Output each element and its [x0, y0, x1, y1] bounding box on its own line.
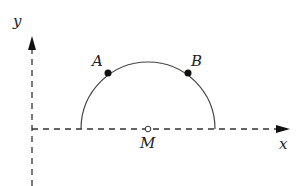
diagram-canvas [0, 0, 303, 186]
x-axis-label: x [279, 137, 287, 152]
y-axis-label: y [13, 14, 21, 29]
point-b [185, 70, 192, 77]
x-axis-arrow-icon [276, 125, 290, 133]
point-a-label: A [92, 54, 103, 69]
point-m-label: M [140, 136, 155, 151]
point-a [105, 70, 112, 77]
point-m [145, 126, 151, 132]
diagram: y x A B M [0, 0, 303, 186]
y-axis-arrow-icon [28, 36, 36, 50]
semicircle-arc [81, 62, 215, 129]
point-b-label: B [191, 54, 202, 69]
